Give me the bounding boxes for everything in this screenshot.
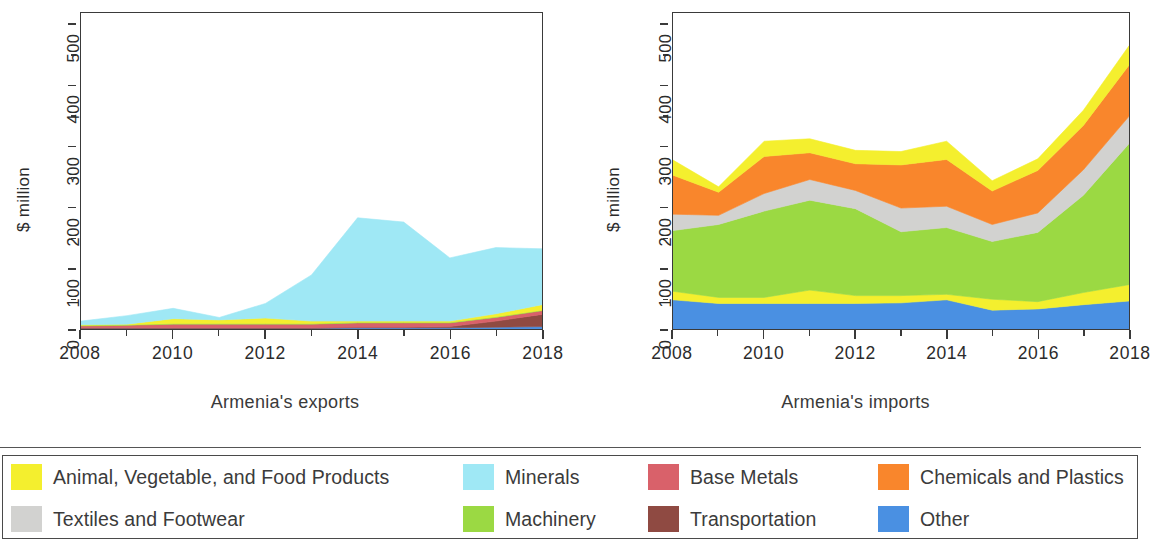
y-tick-mark <box>68 146 76 148</box>
x-tick-mark <box>172 330 174 339</box>
x-tick-mark <box>542 330 544 339</box>
x-tick-mark <box>946 330 948 339</box>
plot-frame-exports <box>80 12 543 330</box>
legend-item-machinery[interactable]: Machinery <box>455 506 640 532</box>
x-tick-mark <box>763 330 765 339</box>
y-tick-mark <box>68 207 76 209</box>
legend-label-transportation: Transportation <box>690 508 816 531</box>
legend-label-base_metals: Base Metals <box>690 466 798 489</box>
legend-label-machinery: Machinery <box>505 508 596 531</box>
legend-item-other[interactable]: Other <box>870 506 1139 532</box>
plot-area-imports <box>672 12 1130 330</box>
legend-item-textiles[interactable]: Textiles and Footwear <box>3 506 455 532</box>
legend-grid: Animal, Vegetable, and Food ProductsMine… <box>3 456 1137 538</box>
x-tick-minor <box>717 330 718 336</box>
area-series-minerals <box>81 218 542 325</box>
x-tick-label: 2010 <box>152 343 193 364</box>
panel-caption-exports: Armenia's exports <box>0 392 570 413</box>
x-tick-minor <box>992 330 993 336</box>
x-tick-minor <box>496 330 497 336</box>
legend-item-transportation[interactable]: Transportation <box>640 506 870 532</box>
y-tick-mark <box>660 268 668 270</box>
y-axis-title-exports: $ million <box>14 167 34 232</box>
y-tick-mark <box>660 146 668 148</box>
x-tick-label: 2016 <box>1018 343 1059 364</box>
x-tick-minor <box>809 330 810 336</box>
x-tick-label: 2010 <box>743 343 784 364</box>
x-tick-minor <box>403 330 404 336</box>
legend-label-chemicals: Chemicals and Plastics <box>920 466 1124 489</box>
legend-swatch-transportation <box>648 506 679 532</box>
y-tick-mark <box>660 329 668 331</box>
x-axis-imports: 200820102012201420162018 <box>672 330 1130 376</box>
legend-swatch-machinery <box>463 506 494 532</box>
x-tick-label: 2014 <box>926 343 967 364</box>
legend-swatch-other <box>878 506 909 532</box>
y-tick-mark <box>68 23 76 25</box>
y-tick-mark <box>660 85 668 87</box>
y-tick-mark <box>68 85 76 87</box>
x-tick-mark <box>450 330 452 339</box>
legend-swatch-minerals <box>463 464 494 490</box>
legend-swatch-food <box>11 464 42 490</box>
x-tick-mark <box>854 330 856 339</box>
legend-item-food[interactable]: Animal, Vegetable, and Food Products <box>3 464 455 490</box>
x-tick-minor <box>311 330 312 336</box>
x-tick-minor <box>126 330 127 336</box>
x-tick-label: 2016 <box>430 343 471 364</box>
legend-label-minerals: Minerals <box>505 466 580 489</box>
x-tick-mark <box>79 330 81 339</box>
x-tick-label: 2018 <box>522 343 563 364</box>
plot-area-exports <box>80 12 543 330</box>
x-tick-minor <box>900 330 901 336</box>
x-tick-minor <box>1083 330 1084 336</box>
x-tick-label: 2012 <box>245 343 286 364</box>
x-tick-mark <box>1129 330 1131 339</box>
legend-top-rule <box>0 447 1141 448</box>
x-tick-mark <box>671 330 673 339</box>
y-tick-mark <box>660 23 668 25</box>
legend-item-chemicals[interactable]: Chemicals and Plastics <box>870 464 1139 490</box>
legend-item-minerals[interactable]: Minerals <box>455 464 640 490</box>
legend-label-food: Animal, Vegetable, and Food Products <box>53 466 389 489</box>
legend-swatch-base_metals <box>648 464 679 490</box>
legend-item-base_metals[interactable]: Base Metals <box>640 464 870 490</box>
panel-caption-imports: Armenia's imports <box>570 392 1141 413</box>
x-tick-label: 2018 <box>1109 343 1150 364</box>
x-tick-label: 2012 <box>835 343 876 364</box>
x-tick-minor <box>218 330 219 336</box>
legend-label-other: Other <box>920 508 969 531</box>
x-axis-exports: 200820102012201420162018 <box>80 330 543 376</box>
legend-swatch-chemicals <box>878 464 909 490</box>
y-tick-mark <box>68 329 76 331</box>
x-tick-label: 2008 <box>59 343 100 364</box>
x-tick-label: 2008 <box>651 343 692 364</box>
x-tick-mark <box>264 330 266 339</box>
x-tick-mark <box>1038 330 1040 339</box>
x-tick-mark <box>357 330 359 339</box>
y-tick-mark <box>68 268 76 270</box>
panel-imports: 0100200300400500 $ million 2008201020122… <box>570 0 1141 440</box>
legend-swatch-textiles <box>11 506 42 532</box>
panel-exports: 0100200300400500 $ million 2008201020122… <box>0 0 570 440</box>
area-chart-imports <box>673 13 1129 329</box>
area-chart-exports <box>81 13 542 329</box>
x-tick-label: 2014 <box>337 343 378 364</box>
y-tick-mark <box>660 207 668 209</box>
plot-frame-imports <box>672 12 1130 330</box>
legend: Animal, Vegetable, and Food ProductsMine… <box>2 455 1138 539</box>
y-axis-title-imports: $ million <box>604 167 624 232</box>
legend-label-textiles: Textiles and Footwear <box>53 508 245 531</box>
